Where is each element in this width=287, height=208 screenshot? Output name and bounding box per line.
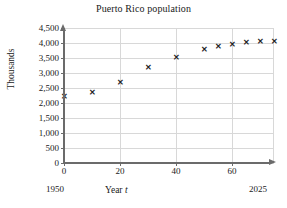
x-axis-endpoint-labels: 1950 2025	[0, 184, 287, 196]
y-axis-tick-label: 4,000	[17, 39, 59, 48]
gridline-horizontal	[64, 88, 274, 89]
x-axis-label-variable: t	[125, 185, 128, 195]
y-axis-tick-label: 2,000	[17, 99, 59, 108]
x-axis-tick-label: 20	[105, 166, 135, 176]
x-axis-tick-mark	[232, 163, 233, 166]
data-point-marker: ✕	[257, 38, 264, 45]
y-axis-tick-label: 1,500	[17, 114, 59, 123]
data-point-marker: ✕	[145, 64, 152, 71]
x-axis-tick-label: 60	[217, 166, 247, 176]
x-axis-arrow-icon	[269, 159, 276, 165]
y-axis-tick-mark	[61, 43, 65, 44]
y-axis-tick-label: 500	[17, 144, 59, 153]
x-axis-line	[64, 162, 271, 164]
y-axis-tick-mark	[61, 58, 65, 59]
y-axis-tick-label: 4,500	[17, 24, 59, 33]
data-point-marker: ✕	[201, 46, 208, 53]
data-point-marker: ✕	[243, 39, 250, 46]
data-point-marker: ✕	[271, 38, 278, 45]
gridline-horizontal	[64, 28, 274, 29]
x-axis-tick-mark	[176, 163, 177, 166]
x-axis-tick-label: 40	[161, 166, 191, 176]
y-axis-tick-label: 3,000	[17, 69, 59, 78]
y-axis-tick-mark	[61, 88, 65, 89]
y-axis-tick-mark	[61, 118, 65, 119]
y-axis-tick-label: 3,500	[17, 54, 59, 63]
x-axis-tick-label: 0	[49, 166, 79, 176]
gridline-horizontal	[64, 118, 274, 119]
y-axis-tick-label: 2,500	[17, 84, 59, 93]
gridline-vertical	[273, 28, 274, 163]
x-axis-tick-mark	[120, 163, 121, 166]
chart-title: Puerto Rico population	[0, 3, 287, 14]
chart-figure: Puerto Rico population Thousands ✕✕✕✕✕✕✕…	[0, 0, 287, 208]
gridline-horizontal	[64, 73, 274, 74]
gridline-vertical	[120, 28, 121, 163]
y-axis-tick-mark	[61, 148, 65, 149]
y-axis-tick-labels: 05001,0001,5002,0002,5003,0003,5004,0004…	[14, 28, 59, 163]
gridline-horizontal	[64, 133, 274, 134]
y-axis-tick-label: 1,000	[17, 129, 59, 138]
x-axis-label: Year t	[105, 185, 128, 195]
y-axis-line	[63, 30, 65, 163]
data-point-marker: ✕	[229, 41, 236, 48]
data-point-marker: ✕	[117, 79, 124, 86]
gridline-horizontal	[64, 58, 274, 59]
x-axis-tick-mark	[64, 163, 65, 166]
gridline-vertical	[176, 28, 177, 163]
x-axis-end-year-label: 2025	[249, 184, 267, 194]
x-axis-tick-labels: 0204060	[64, 166, 279, 178]
x-axis-start-year-label: 1950	[46, 184, 64, 194]
data-point-marker: ✕	[173, 54, 180, 61]
y-axis-tick-mark	[61, 73, 65, 74]
gridline-horizontal	[64, 103, 274, 104]
plot-area: ✕✕✕✕✕✕✕✕✕✕✕	[64, 28, 274, 163]
gridline-horizontal	[64, 148, 274, 149]
data-point-marker: ✕	[89, 89, 96, 96]
y-axis-tick-mark	[61, 103, 65, 104]
data-point-marker: ✕	[215, 43, 222, 50]
x-axis-label-text: Year	[105, 185, 123, 195]
y-axis-tick-mark	[61, 28, 65, 29]
y-axis-tick-mark	[61, 133, 65, 134]
